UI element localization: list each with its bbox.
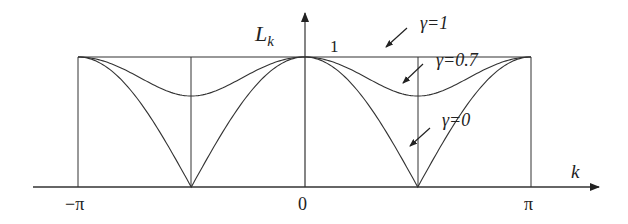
diagram-canvas: Lk 1 γ=1 γ=0.7 γ=0 k −π 0 π	[0, 0, 628, 224]
plot-svg: Lk 1 γ=1 γ=0.7 γ=0 k −π 0 π	[0, 0, 628, 224]
arrow-gamma-0	[410, 128, 430, 146]
x-tick-minus-pi: −π	[65, 194, 84, 214]
y-axis-label: Lk	[254, 21, 274, 49]
arrow-gamma-0-7	[403, 64, 423, 83]
x-tick-zero: 0	[298, 194, 307, 214]
label-gamma-0-7: γ=0.7	[436, 50, 479, 70]
label-gamma-1: γ=1	[420, 13, 448, 33]
y-tick-one: 1	[330, 37, 339, 56]
label-gamma-0: γ=0	[442, 110, 470, 130]
arrow-gamma-1	[386, 28, 407, 47]
x-axis-label: k	[571, 161, 580, 182]
x-tick-pi: π	[524, 194, 533, 214]
